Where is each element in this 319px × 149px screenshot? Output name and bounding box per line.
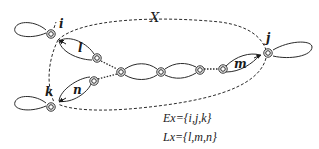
node-j: [264, 49, 272, 57]
network-diagram: X i j k l n m Ex={i,j,k} Lx={l,m,n}: [0, 0, 319, 149]
node-label-i: i: [59, 17, 64, 31]
node-chain-4: [219, 65, 227, 73]
loop-k: [15, 96, 46, 109]
node-k: [47, 103, 55, 111]
set-ex: Ex={i,j,k}: [162, 111, 212, 125]
link-label-n: n: [73, 83, 82, 97]
loop-j: [273, 42, 312, 57]
set-lx: Lx={l,m,n}: [162, 130, 217, 144]
node-chain-1: [117, 68, 125, 76]
node-l-end: [93, 54, 101, 62]
link-label-l: l: [78, 41, 83, 55]
node-label-k: k: [45, 85, 53, 99]
node-chain-3: [196, 66, 204, 74]
node-label-j: j: [264, 31, 271, 45]
region-label-x: X: [149, 10, 160, 25]
link-label-m: m: [234, 57, 247, 71]
loop-i: [15, 23, 46, 37]
node-n-end: [90, 77, 98, 85]
node-chain-2: [157, 68, 165, 76]
node-i: [47, 30, 55, 38]
